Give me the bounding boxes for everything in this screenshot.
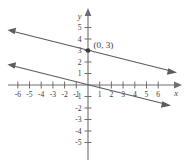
y-tick-label--3: -3 xyxy=(75,115,82,124)
upper-line-arrow-left xyxy=(8,28,17,35)
y-axis-arrow-up xyxy=(85,8,92,16)
lower-line-arrow-right xyxy=(161,101,171,108)
y-tick-label--2: -2 xyxy=(75,104,82,113)
x-tick-label--2: -2 xyxy=(61,90,68,99)
y-tick-label--4: -4 xyxy=(75,127,82,136)
x-tick-label-1: 1 xyxy=(98,90,102,99)
y-tick-label-4: 4 xyxy=(78,35,82,44)
coordinate-plane-graph: -6 -5 -4 -3 -2 -1 1 2 3 4 5 6 5 4 3 2 1 … xyxy=(0,0,186,163)
series-upper-line xyxy=(8,28,178,75)
upper-line-segment xyxy=(13,31,172,71)
x-tick-label--3: -3 xyxy=(50,90,57,99)
point-0-3-label: (0, 3) xyxy=(94,40,114,50)
x-tick-label--6: -6 xyxy=(15,90,22,99)
x-tick-label-5: 5 xyxy=(145,90,149,99)
point-0-3-marker xyxy=(86,48,91,53)
x-tick-label--4: -4 xyxy=(38,90,45,99)
x-axis-arrow-right xyxy=(174,82,182,89)
y-tick-label-2: 2 xyxy=(78,58,82,67)
y-tick-label--5: -5 xyxy=(75,138,82,147)
upper-line-arrow-right xyxy=(167,68,177,75)
axes-group xyxy=(8,8,182,160)
y-tick-label-1: 1 xyxy=(78,69,82,78)
y-tick-label-5: 5 xyxy=(78,23,82,32)
x-axis-label: x xyxy=(173,89,178,98)
lower-line-arrow-left xyxy=(8,62,17,69)
x-tick-label--5: -5 xyxy=(26,90,33,99)
graph-canvas: -6 -5 -4 -3 -2 -1 1 2 3 4 5 6 5 4 3 2 1 … xyxy=(0,0,186,163)
x-tick-label-6: 6 xyxy=(156,90,160,99)
plotted-points xyxy=(86,48,91,53)
y-axis-label: y xyxy=(77,12,82,21)
y-tick-label--1: -1 xyxy=(75,92,82,101)
